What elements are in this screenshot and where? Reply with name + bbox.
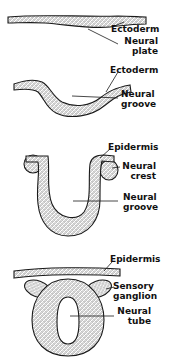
label-neural-plate: Neural plate — [118, 36, 158, 56]
label-sensory-ganglion: Sensory ganglion — [113, 281, 157, 301]
label-neural-tube-line1: Neural — [113, 306, 151, 316]
label-neural-groove3-line2: groove — [123, 202, 158, 212]
label-neural-groove3-line1: Neural — [123, 192, 158, 202]
stage-3-folds — [24, 149, 120, 236]
label-neural-tube-line2: tube — [113, 316, 151, 326]
neural-tube-wall — [32, 279, 104, 356]
label-neural-groove-line2: groove — [121, 99, 156, 109]
epidermis-layer — [14, 268, 120, 278]
label-neural-crest: Neural crest — [118, 161, 156, 181]
label-neural-tube: Neural tube — [113, 306, 151, 326]
label-neural-groove-stage2: Neural groove — [121, 89, 156, 109]
label-epidermis-stage3: Epidermis — [108, 142, 158, 152]
stage-2-groove — [14, 72, 131, 117]
neural-fold-u-shape — [26, 155, 114, 236]
stage-4-tube — [14, 262, 120, 356]
label-sensory-ganglion-line2: ganglion — [113, 291, 157, 301]
label-epidermis-stage4: Epidermis — [110, 254, 160, 264]
label-neural-crest-line1: Neural — [118, 161, 156, 171]
label-sensory-ganglion-line1: Sensory — [113, 281, 157, 291]
label-ectoderm-stage2: Ectoderm — [110, 65, 158, 75]
label-neural-groove-stage3: Neural groove — [123, 192, 158, 212]
label-neural-groove-line1: Neural — [121, 89, 156, 99]
neural-crest-right — [100, 160, 118, 180]
label-neural-plate-line1: Neural — [118, 36, 158, 46]
label-ectoderm-stage1: Ectoderm — [111, 24, 159, 34]
label-neural-crest-line2: crest — [118, 171, 156, 181]
neural-groove-shape — [14, 80, 131, 116]
label-neural-plate-line2: plate — [118, 46, 158, 56]
